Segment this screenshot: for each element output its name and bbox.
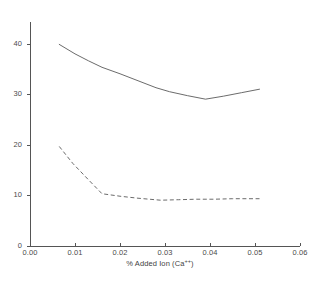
y-tick-label-20: 20 (2, 140, 22, 149)
x-tick-label-000: 0.00 (16, 248, 44, 257)
x-axis-title: % Added Ion (Ca++) (0, 259, 320, 268)
x-axis-title-prefix: % Added Ion (Ca (126, 259, 184, 268)
x-tick-label-001: 0.01 (61, 248, 89, 257)
x-tick-label-005: 0.05 (241, 248, 269, 257)
y-tick-label-40: 40 (2, 39, 22, 48)
y-tick-label-10: 10 (2, 190, 22, 199)
x-axis-title-suffix: ) (191, 259, 194, 268)
plot-area (0, 0, 320, 281)
series-line-lower (59, 146, 259, 200)
chart-figure: 0 10 20 30 40 0.00 0.01 0.02 0.03 0.04 0… (0, 0, 320, 281)
y-tick-label-30: 30 (2, 89, 22, 98)
series-line-upper (59, 44, 259, 99)
x-tick-label-002: 0.02 (106, 248, 134, 257)
x-tick-label-006: 0.06 (286, 248, 314, 257)
x-tick-label-003: 0.03 (151, 248, 179, 257)
x-tick-label-004: 0.04 (196, 248, 224, 257)
